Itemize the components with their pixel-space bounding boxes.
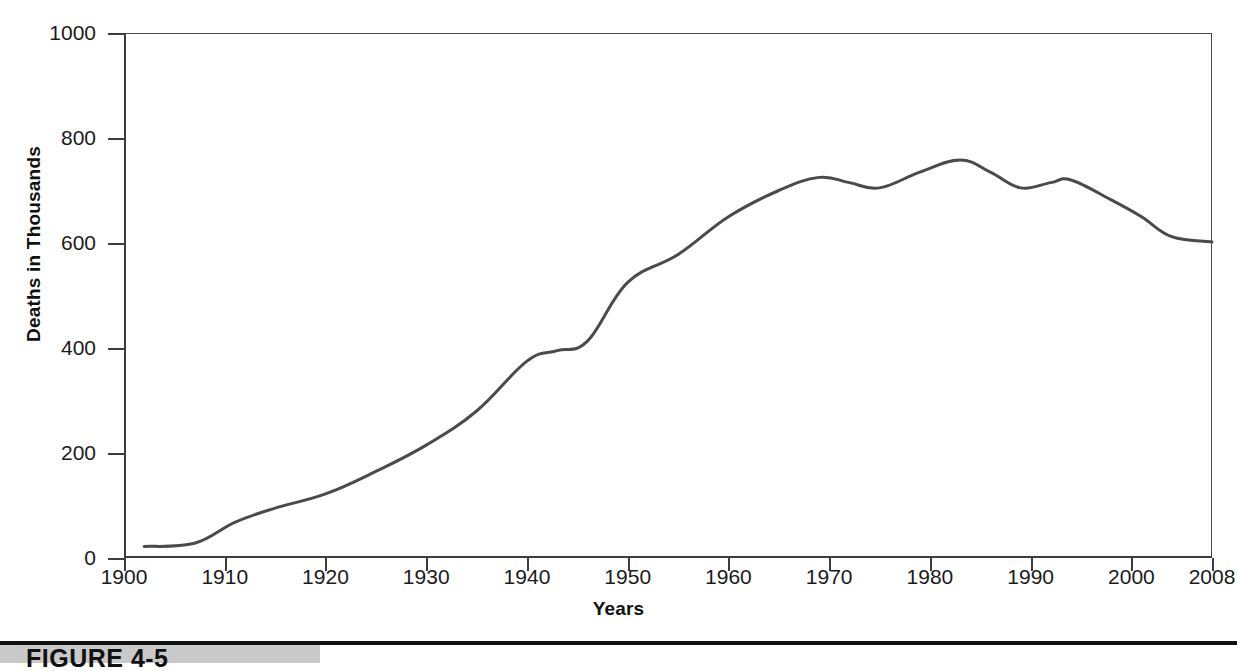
x-axis-tick-label: 1950 xyxy=(578,566,678,587)
y-axis-tick xyxy=(108,33,124,35)
y-axis-tick xyxy=(108,453,124,455)
x-axis-tick-label: 1980 xyxy=(880,566,980,587)
y-axis-tick xyxy=(108,558,124,560)
x-axis-tick-label: 1920 xyxy=(275,566,375,587)
x-axis-title: Years xyxy=(0,598,1237,620)
y-axis-tick xyxy=(108,348,124,350)
y-axis-tick xyxy=(108,243,124,245)
plot-frame xyxy=(124,33,1212,558)
x-axis-tick-label: 1990 xyxy=(981,566,1081,587)
figure-caption-label: FIGURE 4-5 xyxy=(26,646,169,671)
y-axis-tick-label: 200 xyxy=(16,442,96,463)
y-axis-title: Deaths in Thousands xyxy=(23,114,45,374)
x-axis-tick-label: 1960 xyxy=(678,566,778,587)
x-axis-tick-label: 1940 xyxy=(477,566,577,587)
chart-plot-area: 02004006008001000 1900191019201930194019… xyxy=(0,0,1237,612)
x-axis-tick-label: 1930 xyxy=(376,566,476,587)
y-axis-tick-label: 1000 xyxy=(16,22,96,43)
y-axis-tick xyxy=(108,138,124,140)
x-axis-tick-label: 2008 xyxy=(1162,566,1237,587)
x-axis-tick-label: 1970 xyxy=(779,566,879,587)
y-axis-tick-label: 0 xyxy=(16,547,96,568)
x-axis-tick-label: 1900 xyxy=(74,566,174,587)
x-axis-tick-label: 1910 xyxy=(175,566,275,587)
